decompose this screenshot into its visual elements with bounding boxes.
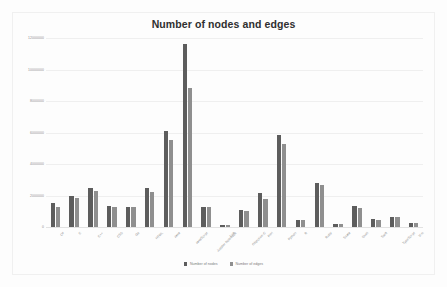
x-axis-tick-label: TypeScript — [402, 231, 416, 245]
y-axis-tick-label: 12000000 — [28, 36, 44, 40]
x-axis-tick-label: C# — [59, 231, 65, 237]
legend-item: Number of edges — [230, 262, 264, 266]
bar-group — [65, 38, 84, 227]
bar — [282, 144, 286, 227]
x-axis-tick-label: C++ — [97, 231, 104, 238]
chart-card: Number of nodes and edges 02000000400000… — [0, 0, 447, 287]
bar — [164, 131, 168, 227]
bar-group — [235, 38, 254, 227]
y-axis-tick-label: 6000000 — [30, 131, 44, 135]
bar — [201, 207, 205, 227]
bar — [390, 217, 394, 227]
legend-swatch-icon — [230, 262, 234, 266]
bar — [183, 44, 187, 227]
x-axis-tick-label: R — [303, 231, 308, 236]
x-axis-tick-label: Go — [134, 231, 140, 237]
x-axis-tick-label: Perl — [267, 231, 274, 238]
bar — [263, 199, 267, 227]
legend-swatch-icon — [184, 262, 188, 266]
bar — [69, 196, 73, 228]
x-axis-tick-label: JavaScript — [194, 231, 208, 245]
bar — [51, 203, 55, 227]
bar — [150, 192, 154, 227]
x-axis-tick-label: Scala — [343, 231, 352, 240]
bar — [169, 140, 173, 227]
bar — [315, 183, 319, 227]
x-axis-tick-label: Java — [173, 231, 181, 239]
bar-group — [216, 38, 235, 227]
bar-group — [159, 38, 178, 227]
y-axis-tick-label: 4000000 — [30, 162, 44, 166]
bar-group — [404, 38, 423, 227]
x-axis-tick-label: Swift — [380, 231, 388, 239]
bar-group — [140, 38, 159, 227]
legend-label: Number of edges — [236, 262, 264, 266]
bar — [244, 211, 248, 227]
bar-group — [291, 38, 310, 227]
bar-group — [385, 38, 404, 227]
bar — [75, 198, 79, 227]
bar-group — [366, 38, 385, 227]
bar — [126, 207, 130, 227]
chart-legend: Number of nodesNumber of edges — [0, 262, 447, 266]
chart-title: Number of nodes and edges — [0, 18, 447, 30]
bar-group — [329, 38, 348, 227]
y-axis-tick-label: 2000000 — [30, 194, 44, 198]
y-axis-tick-label: 10000000 — [28, 68, 44, 72]
bar-group — [84, 38, 103, 227]
x-axis-tick-label: Ruby — [324, 231, 332, 239]
bar — [107, 206, 111, 227]
x-axis-tick-label: CSS — [116, 231, 124, 239]
plot-area — [46, 38, 423, 227]
legend-item: Number of nodes — [184, 262, 218, 266]
x-axis-tick-label: Objective-C — [251, 231, 266, 246]
bar-group — [197, 38, 216, 227]
bar-group — [348, 38, 367, 227]
x-axis-tick-label: Python — [287, 231, 297, 241]
bar — [358, 208, 362, 227]
bar — [395, 217, 399, 227]
x-axis-tick-label: C — [77, 231, 82, 236]
y-axis-tick-label: 0 — [42, 225, 44, 229]
bar-group — [46, 38, 65, 227]
bar — [296, 220, 300, 227]
x-axis-tick-label: Shell — [362, 231, 370, 239]
bar-group — [178, 38, 197, 227]
bar — [239, 210, 243, 227]
bar — [56, 207, 60, 227]
bar — [371, 219, 375, 227]
bar — [145, 188, 149, 227]
bar-group — [272, 38, 291, 227]
x-axis-line — [46, 227, 423, 228]
legend-label: Number of nodes — [190, 262, 218, 266]
bar — [320, 185, 324, 227]
bar — [301, 220, 305, 227]
y-axis-tick-label: 8000000 — [30, 99, 44, 103]
bar-group — [103, 38, 122, 227]
bar — [277, 135, 281, 227]
bar — [112, 207, 116, 227]
bar — [207, 207, 211, 227]
x-axis-tick-label: HTML — [155, 231, 164, 240]
bar — [88, 188, 92, 227]
bar — [188, 88, 192, 227]
bar-group — [121, 38, 140, 227]
bar — [94, 191, 98, 227]
y-axis-labels: 0200000040000006000000800000010000000120… — [0, 0, 44, 287]
bar — [131, 207, 135, 227]
bar-group — [310, 38, 329, 227]
bar — [352, 206, 356, 227]
bar — [258, 193, 262, 227]
x-axis-tick-label: Lua — [229, 231, 236, 238]
bar — [376, 220, 380, 227]
bar-group — [253, 38, 272, 227]
